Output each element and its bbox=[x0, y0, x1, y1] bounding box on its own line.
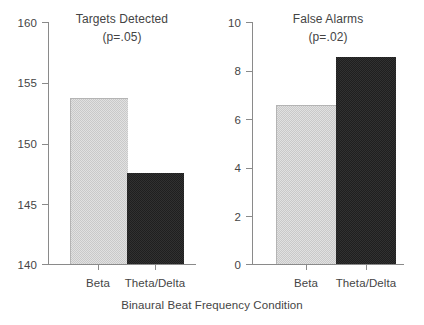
y-axis-targets-detected bbox=[48, 22, 49, 265]
y-tick-155: 155 bbox=[42, 83, 48, 84]
x-tick-label-beta: Beta bbox=[294, 277, 318, 289]
y-tick-6: 6 bbox=[246, 119, 252, 120]
bar-false-alarms-beta bbox=[276, 105, 337, 264]
y-tick-8: 8 bbox=[246, 71, 252, 72]
panel-false-alarms: False Alarms (p=.02) 10 8 6 4 2 0 bbox=[212, 0, 424, 325]
x-axis-targets-detected bbox=[48, 264, 196, 265]
x-tick-theta-delta bbox=[366, 265, 367, 270]
x-tick-beta bbox=[306, 265, 307, 270]
y-tick-label-2: 2 bbox=[235, 211, 242, 223]
y-tick-label-8: 8 bbox=[235, 65, 242, 77]
y-tick-0: 0 bbox=[246, 264, 252, 265]
y-tick-label-4: 4 bbox=[235, 162, 242, 174]
plot-area-false-alarms: 10 8 6 4 2 0 Beta Theta/Delta bbox=[252, 22, 404, 265]
plot-area-targets-detected: 160 155 150 145 140 Beta Theta/Delta bbox=[48, 22, 196, 265]
x-tick-label-beta: Beta bbox=[86, 277, 110, 289]
y-tick-4: 4 bbox=[246, 168, 252, 169]
x-tick-theta-delta bbox=[155, 265, 156, 270]
y-tick-10: 10 bbox=[246, 22, 252, 23]
y-tick-label-155: 155 bbox=[18, 77, 38, 89]
y-tick-145: 145 bbox=[42, 204, 48, 205]
x-tick-label-theta-delta: Theta/Delta bbox=[336, 277, 397, 289]
y-tick-150: 150 bbox=[42, 144, 48, 145]
x-tick-label-theta-delta: Theta/Delta bbox=[125, 277, 186, 289]
y-tick-label-0: 0 bbox=[235, 259, 242, 271]
y-tick-label-10: 10 bbox=[228, 17, 241, 29]
y-tick-label-145: 145 bbox=[18, 199, 38, 211]
figure: Targets Detected (p=.05) 160 155 150 145… bbox=[0, 0, 424, 325]
y-tick-label-140: 140 bbox=[18, 259, 38, 271]
y-axis-false-alarms bbox=[252, 22, 253, 265]
bar-false-alarms-theta-delta bbox=[336, 57, 396, 264]
panel-targets-detected: Targets Detected (p=.05) 160 155 150 145… bbox=[0, 0, 212, 325]
bar-targets-beta bbox=[70, 98, 128, 264]
figure-xlabel: Binaural Beat Frequency Condition bbox=[0, 299, 424, 311]
bar-targets-theta-delta bbox=[127, 173, 184, 264]
y-tick-label-150: 150 bbox=[18, 138, 38, 150]
x-tick-beta bbox=[98, 265, 99, 270]
y-tick-label-160: 160 bbox=[18, 17, 38, 29]
x-axis-false-alarms bbox=[252, 264, 404, 265]
y-tick-140: 140 bbox=[42, 264, 48, 265]
y-tick-2: 2 bbox=[246, 216, 252, 217]
y-tick-160: 160 bbox=[42, 22, 48, 23]
y-tick-label-6: 6 bbox=[235, 114, 242, 126]
